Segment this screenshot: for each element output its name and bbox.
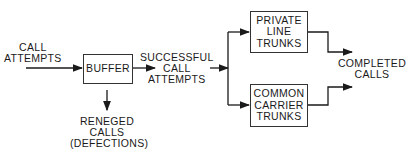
buffer-box: BUFFER	[83, 54, 133, 84]
successful-line-3: ATTEMPTS	[140, 74, 214, 85]
completed-line-2: CALLS	[332, 69, 412, 80]
common-line-3: TRUNKS	[257, 111, 302, 123]
reneged-calls-label: RENEGED CALLS (DEFECTIONS)	[70, 116, 144, 149]
private-line-3: TRUNKS	[257, 38, 302, 50]
reneged-line-3: (DEFECTIONS)	[70, 138, 144, 149]
call-attempts-line-2: ATTEMPTS	[4, 53, 62, 64]
buffer-label: BUFFER	[86, 63, 130, 75]
completed-calls-label: COMPLETED CALLS	[332, 58, 412, 80]
successful-call-attempts-label: SUCCESSFUL CALL ATTEMPTS	[140, 52, 214, 85]
private-line-trunks-box: PRIVATE LINE TRUNKS	[250, 11, 308, 53]
call-attempts-label: CALL ATTEMPTS	[4, 42, 62, 64]
common-carrier-trunks-box: COMMON CARRIER TRUNKS	[250, 84, 308, 127]
